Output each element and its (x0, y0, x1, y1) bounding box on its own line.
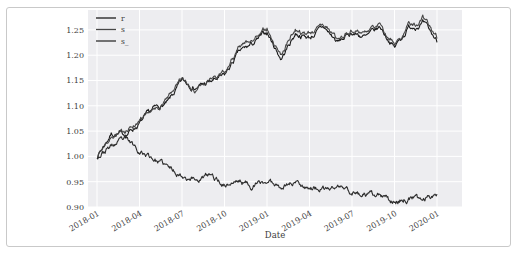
x-tick-label: 2019-07 (323, 209, 356, 233)
legend-label-r: r (121, 14, 125, 23)
x-tick-label: 2019-10 (365, 209, 398, 233)
x-tick-label: 2019-04 (280, 209, 313, 233)
x-axis-title: Date (265, 230, 285, 240)
legend-label-s_: s_ (121, 37, 129, 46)
x-tick-label: 2020-01 (408, 209, 441, 233)
x-tick-label: 2018-04 (110, 209, 143, 233)
y-tick-label: 1.05 (66, 127, 84, 136)
y-tick-label: 1.15 (66, 76, 84, 85)
y-tick-label: 0.90 (66, 203, 84, 212)
x-tick-label: 2018-07 (153, 209, 186, 233)
y-tick-label: 0.95 (66, 178, 84, 187)
y-tick-label: 1.00 (66, 152, 84, 161)
y-tick-label: 1.20 (66, 51, 84, 60)
y-tick-label: 1.25 (66, 26, 84, 35)
x-tick-label: 2018-10 (195, 209, 228, 233)
legend-label-s: s (121, 25, 125, 34)
y-tick-label: 1.10 (66, 102, 84, 111)
line-chart: 0.900.951.001.051.101.151.201.252018-012… (0, 0, 525, 262)
x-tick-label: 2018-01 (68, 209, 101, 233)
plot-background (88, 10, 462, 207)
